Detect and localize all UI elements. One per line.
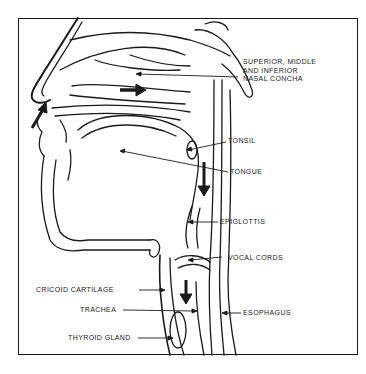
label-esophagus: ESOPHAGUS (243, 309, 291, 318)
label-nasal-concha: SUPERIOR, MIDDLE AND INFERIOR NASAL CONC… (243, 58, 316, 84)
label-vocal-cords: VOCAL CORDS (228, 254, 283, 263)
label-trachea: TRACHEA (80, 306, 116, 315)
label-tonsil: TONSIL (228, 137, 256, 146)
label-epiglottis: EPIGLOTTIS (220, 218, 265, 227)
label-tongue: TONGUE (230, 168, 262, 177)
anatomy-illustration (0, 0, 366, 374)
label-cricoid-cartilage: CRICOID CARTILAGE (36, 286, 114, 295)
label-thyroid-gland: THYROID GLAND (68, 334, 131, 343)
